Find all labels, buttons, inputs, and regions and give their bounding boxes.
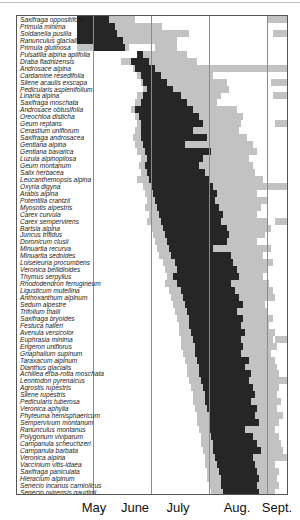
species-label: Campanula barbata	[20, 447, 78, 454]
species-label: Thymus serpyllus	[20, 273, 71, 280]
species-label: Anthoxanthum alpinum	[20, 294, 87, 301]
species-label: Trifolium thalii	[20, 308, 60, 315]
top-rule	[0, 2, 300, 3]
species-label: Avenula versicolor	[20, 329, 74, 336]
species-label: Salix herbacea	[20, 169, 64, 176]
month-tick-label: July	[166, 500, 189, 515]
species-label: Soldanella pusilla	[20, 30, 71, 37]
species-label: Erigeron uniflorus	[20, 343, 72, 350]
species-label: Veronica bellidioides	[20, 266, 80, 273]
species-label: Gnaphalium supinum	[20, 350, 82, 357]
species-label: Polygonum viviparum	[20, 433, 83, 440]
species-label: Pedicularis tuberosa	[20, 398, 80, 405]
species-label: Gentiana alpina	[20, 141, 66, 148]
species-label: Saxifraga moschata	[20, 99, 78, 106]
species-label: Potentilla crantzii	[20, 197, 70, 204]
species-label: Silene rupestris	[20, 391, 65, 398]
species-label: Hieracium alpinum	[20, 475, 75, 482]
species-label: Agrostis rupestris	[20, 384, 71, 391]
species-label: Vaccinium vitis-idaea	[20, 461, 82, 468]
species-label: Bartsia alpina	[20, 225, 60, 232]
species-label: Myosotis alpestris	[20, 204, 72, 211]
species-label: Sedum alpestre	[20, 301, 66, 308]
species-label: Leucanthemopsis alpina	[20, 176, 91, 183]
species-label: Arabis alpina	[20, 190, 58, 197]
species-label: Euphrasia minima	[20, 336, 73, 343]
species-label: Geum reptans	[20, 120, 62, 127]
species-label: Cerastium uniflorum	[20, 127, 79, 134]
species-label: Primula glutinosa	[20, 44, 71, 51]
species-label: Taraxacum alpinum	[20, 357, 77, 364]
month-tick-label: May	[82, 500, 107, 515]
species-label: Saxifraga bryoides	[20, 315, 75, 322]
species-label: Primula minima	[20, 23, 65, 30]
species-label: Silene acaulis exscapa	[20, 79, 87, 86]
species-label: Achillea erba-rotta moschata	[20, 370, 104, 377]
species-label: Campanula scheuchzeri	[20, 440, 91, 447]
month-tick-label: Aug.	[224, 500, 251, 515]
species-label: Ranunculus montanus	[20, 426, 86, 433]
species-label: Doronicum clusii	[20, 238, 68, 245]
phenology-chart: Saxifraga oppositifoliaPrimula minimaSol…	[16, 15, 288, 495]
species-label: Androsace alpina	[20, 65, 71, 72]
species-label: Minuartia recurva	[20, 245, 71, 252]
month-tick-label: Sept.	[262, 500, 292, 515]
species-label: Minuartia sedoides	[20, 252, 75, 259]
species-label: Ligusticum mutellina	[20, 287, 80, 294]
species-label: Saxifraga androsacea	[20, 134, 84, 141]
species-label: Dianthus glacialis	[20, 364, 71, 371]
species-label: Leontodon pyrenaicus	[20, 377, 85, 384]
species-label: Geum montanum	[20, 162, 71, 169]
species-label: Juncus trifidus	[20, 231, 62, 238]
species-label: Pulsatilla alpina apiifolia	[20, 51, 90, 58]
species-labels: Saxifraga oppositifoliaPrimula minimaSol…	[17, 16, 287, 494]
species-label: Veronica aphylla	[20, 405, 69, 412]
species-label: Saxifraga paniculata	[20, 468, 80, 475]
species-label: Senecio ovirensis gaudinii	[20, 489, 96, 495]
month-axis: MayJuneJulyAug.Sept.	[0, 500, 300, 520]
species-label: Luzula alpinopilosa	[20, 155, 76, 162]
species-label: Senecio incanus carniolicus	[20, 482, 101, 489]
species-label: Oxyria digyna	[20, 183, 60, 190]
species-label: Veronica alpina	[20, 454, 65, 461]
species-label: Festuca halleri	[20, 322, 63, 329]
species-label: Rhododendron ferrugineum	[20, 280, 101, 287]
month-tick-label: June	[121, 500, 149, 515]
species-label: Carex curvula	[20, 211, 61, 218]
species-label: Ranunculus glacialis	[20, 37, 80, 44]
species-label: Pedicularis asplenifolium	[20, 86, 93, 93]
species-label: Loiseleuria procumbens	[20, 259, 90, 266]
species-label: Cardamine resedifolia	[20, 72, 84, 79]
species-label: Draba fladnizensis	[20, 58, 74, 65]
species-label: Sempervivum montanum	[20, 419, 93, 426]
species-label: Androsace obtusifolia	[20, 106, 83, 113]
species-label: Gentiana bavarica	[20, 148, 74, 155]
species-label: Linaria alpina	[20, 92, 59, 99]
species-label: Oreochloa disticha	[20, 113, 75, 120]
species-label: Saxifraga oppositifolia	[20, 16, 85, 23]
species-label: Carex sempervirens	[20, 218, 79, 225]
species-label: Phyteuma hemisphaericum	[20, 412, 100, 419]
